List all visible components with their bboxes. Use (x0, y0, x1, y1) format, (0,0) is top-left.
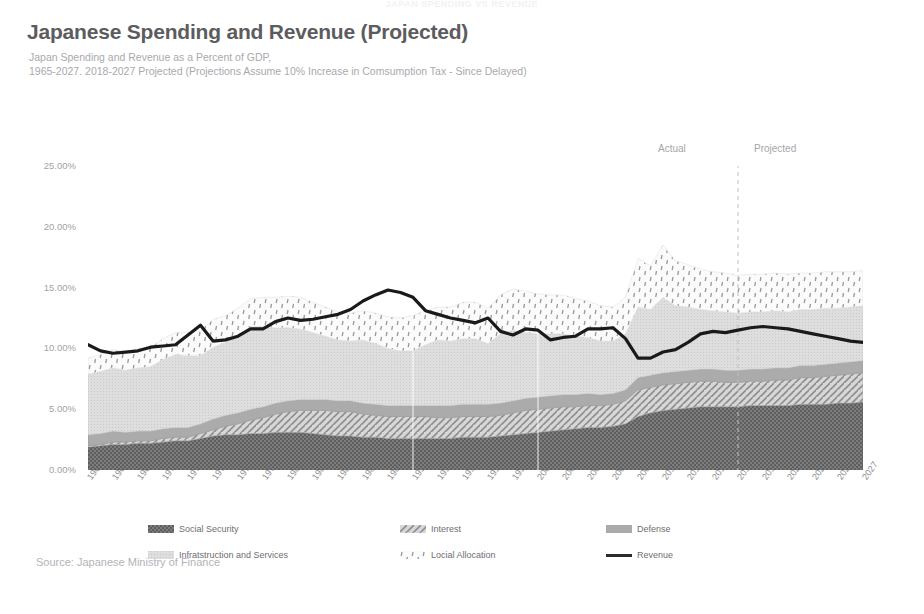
legend-label: Defense (637, 524, 671, 534)
y-axis-tick: 0.00% (4, 465, 76, 475)
legend-item-interest[interactable]: Interest (400, 524, 461, 534)
top-banner: JAPAN SPENDING VS REVENUE (0, 0, 924, 9)
annotation-actual: Actual (658, 143, 686, 154)
plot-area (88, 166, 863, 470)
legend-item-defense[interactable]: Defense (606, 524, 671, 534)
legend-swatch-defense (606, 525, 632, 533)
y-axis-tick: 15.00% (4, 283, 76, 293)
legend-label: Interest (431, 524, 461, 534)
legend-swatch-revenue-line (606, 554, 632, 557)
legend-item-social-security[interactable]: Social Security (148, 524, 239, 534)
chart-legend: Social SecurityInterestDefenseInfratstru… (148, 524, 878, 568)
chart-sheet: JAPAN SPENDING VS REVENUE Japanese Spend… (0, 0, 924, 614)
y-axis-tick: 5.00% (4, 404, 76, 414)
legend-label: Locial Allocation (431, 550, 496, 560)
annotation-projected: Projected (754, 143, 796, 154)
legend-item-revenue[interactable]: Revenue (606, 550, 673, 560)
legend-item-local-allocation[interactable]: Locial Allocation (400, 550, 496, 560)
subtitle-line-1: Japan Spending and Revenue as a Percent … (29, 51, 271, 63)
legend-swatch-local-allocation (400, 551, 426, 559)
legend-swatch-interest (400, 525, 426, 533)
page-title: Japanese Spending and Revenue (Projected… (27, 20, 468, 44)
source-note: Source: Japanese Ministry of Finance (36, 556, 220, 568)
legend-label: Revenue (637, 550, 673, 560)
subtitle-line-2: 1965-2027. 2018-2027 Projected (Projecti… (29, 65, 527, 77)
y-axis-tick: 10.00% (4, 343, 76, 353)
y-axis-tick: 20.00% (4, 222, 76, 232)
y-axis-tick: 25.00% (4, 161, 76, 171)
legend-swatch-social-security (148, 525, 174, 533)
stacked-area-chart (88, 166, 863, 470)
legend-label: Social Security (179, 524, 239, 534)
chart-subtitle: Japan Spending and Revenue as a Percent … (29, 50, 527, 78)
